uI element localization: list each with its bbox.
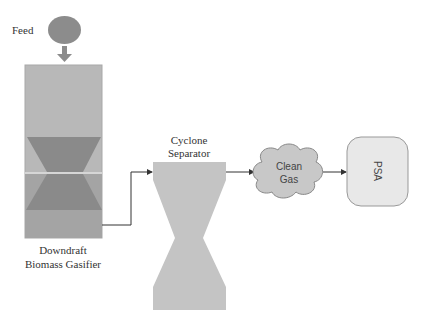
gasifier-label-line1: Downdraft <box>39 244 87 256</box>
cyclone-label-line2: Separator <box>168 147 210 159</box>
psa-label: PSA <box>372 161 383 181</box>
gasifier-node: Downdraft Biomass Gasifier <box>25 65 102 270</box>
process-diagram: Feed Downdraft Biomass Gasifier Cyclone … <box>0 0 428 327</box>
cyclone-label-line1: Cyclone <box>171 134 208 146</box>
feed-ellipse <box>48 16 81 44</box>
cyclone-shape <box>153 162 226 310</box>
cyclone-node: Cyclone Separator <box>153 134 226 310</box>
gasifier-label-line2: Biomass Gasifier <box>25 258 101 270</box>
feed-label: Feed <box>12 24 34 36</box>
gasifier-to-cyclone-arrow <box>102 172 152 225</box>
gasifier-bottom <box>25 210 102 238</box>
clean-gas-label-line2: Gas <box>280 174 298 185</box>
clean-gas-node: Clean Gas <box>253 144 323 198</box>
psa-node: PSA <box>347 137 408 206</box>
feed-node: Feed <box>12 16 81 44</box>
feed-arrow-icon <box>57 46 72 62</box>
clean-gas-label-line1: Clean <box>276 161 302 172</box>
